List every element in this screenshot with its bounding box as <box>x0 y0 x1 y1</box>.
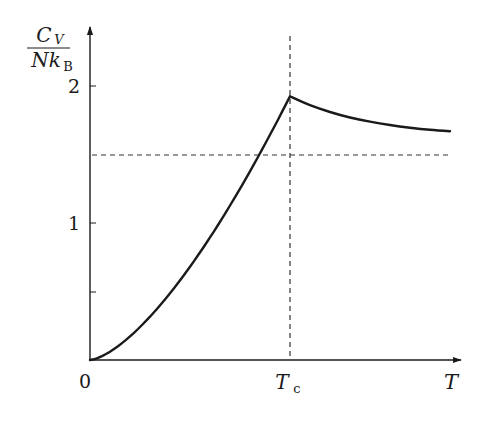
x-axis-label: T <box>444 370 460 394</box>
tc-label: T c <box>275 370 300 396</box>
y-label-denominator-main: Nk <box>30 48 61 72</box>
y-tick-label-2: 2 <box>68 75 80 97</box>
origin-label: 0 <box>79 370 91 392</box>
y-label-numerator-main: C <box>36 23 51 47</box>
heat-capacity-chart: 2 1 0 T c T C V Nk B <box>0 0 481 422</box>
tc-label-sub: c <box>293 381 300 396</box>
axes <box>90 27 461 360</box>
heat-capacity-curve <box>90 96 450 360</box>
y-label-denominator-sub: B <box>63 59 73 74</box>
tc-label-main: T <box>275 370 290 394</box>
y-label-numerator-sub: V <box>54 32 65 47</box>
y-tick-label-1: 1 <box>68 212 80 234</box>
reference-lines <box>92 36 452 360</box>
y-axis-label: C V Nk B <box>27 23 73 74</box>
